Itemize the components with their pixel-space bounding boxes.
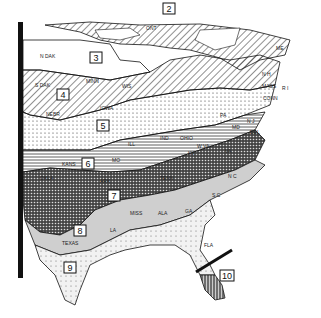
zone-label-2: 2 xyxy=(163,3,175,14)
state-label-iowa: IOWA xyxy=(100,105,114,111)
state-label-la: LA xyxy=(110,227,117,233)
state-label-ri: R I xyxy=(282,85,288,91)
state-label-va: VA xyxy=(225,148,232,154)
state-label-ill: ILL xyxy=(128,141,135,147)
state-label-ky: KY xyxy=(188,150,195,156)
svg-text:10: 10 xyxy=(222,271,232,281)
svg-text:6: 6 xyxy=(85,159,90,169)
svg-text:5: 5 xyxy=(100,121,105,131)
state-label-ark: ARK xyxy=(100,178,111,184)
zone-label-3: 3 xyxy=(90,52,102,63)
svg-text:8: 8 xyxy=(77,226,82,236)
state-label-ont: ONT xyxy=(146,25,157,31)
state-label-wva: W VA xyxy=(197,143,210,149)
state-label-fla: FLA xyxy=(204,242,214,248)
state-label-nebr: NEBR xyxy=(46,111,60,117)
state-label-md: MD xyxy=(232,124,240,130)
state-label-minn: MINN xyxy=(86,78,99,84)
state-label-nj: N J xyxy=(247,118,255,124)
svg-text:9: 9 xyxy=(67,263,72,273)
state-label-pa: PA xyxy=(220,112,227,118)
state-label-ala: ALA xyxy=(158,210,168,216)
zone-label-8: 8 xyxy=(74,225,86,236)
state-label-texas: TEXAS xyxy=(62,240,79,246)
state-label-conn: CONN xyxy=(263,95,278,101)
state-label-ga: GA xyxy=(185,208,193,214)
state-label-nh: N H xyxy=(262,71,271,77)
zone-label-6: 6 xyxy=(82,158,94,169)
svg-text:2: 2 xyxy=(166,4,171,14)
state-label-mo: MO xyxy=(112,157,120,163)
state-label-ndak: N DAK xyxy=(40,53,56,59)
zone-map: 2 3 4 5 6 7 8 9 10 N DAK S DAK MINN WIS … xyxy=(0,0,321,318)
zone-label-5: 5 xyxy=(97,120,109,131)
state-label-ohio: OHIO xyxy=(180,135,193,141)
state-label-kans: KANS xyxy=(62,161,76,167)
zone-label-9: 9 xyxy=(64,262,76,273)
state-label-miss: MISS xyxy=(130,210,143,216)
zone-label-7: 7 xyxy=(108,190,120,201)
state-label-nc: N C xyxy=(228,173,237,179)
state-label-ind: IND xyxy=(160,135,169,141)
zone-label-4: 4 xyxy=(57,89,69,100)
state-label-me: ME xyxy=(276,45,284,51)
state-label-del: DEL xyxy=(250,129,260,135)
state-label-wis: WIS xyxy=(122,83,132,89)
state-label-sdak: S DAK xyxy=(35,82,51,88)
state-label-okla: OKLA xyxy=(40,175,54,181)
svg-text:4: 4 xyxy=(60,90,65,100)
state-label-sc: S C xyxy=(212,192,221,198)
state-label-mass: MASS xyxy=(262,83,277,89)
svg-text:3: 3 xyxy=(93,53,98,63)
state-label-tenn: TENN xyxy=(160,175,174,181)
svg-text:7: 7 xyxy=(111,191,116,201)
zone-label-10: 10 xyxy=(220,270,234,281)
